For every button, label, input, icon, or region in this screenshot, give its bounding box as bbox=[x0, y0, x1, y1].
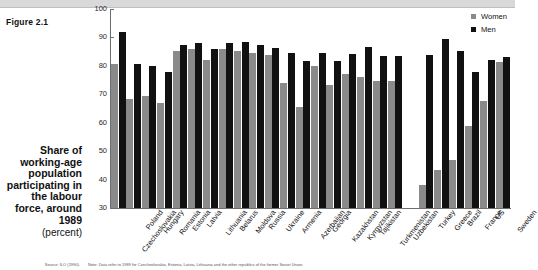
figure-source-note: Source: ILO (1990). bbox=[4, 262, 80, 267]
x-axis-label: Sweden bbox=[515, 208, 538, 234]
bar-women bbox=[419, 185, 426, 208]
bar-group bbox=[419, 9, 434, 208]
bar-men bbox=[180, 45, 187, 208]
bar-men bbox=[303, 61, 310, 208]
figure-caption-title: Share of working-age population particip… bbox=[0, 145, 82, 226]
bar-women bbox=[203, 60, 210, 208]
bar-women bbox=[111, 64, 118, 208]
bar-men bbox=[488, 60, 495, 208]
bar-women bbox=[311, 66, 318, 208]
y-tick-label: 40 bbox=[87, 175, 107, 184]
bar-group bbox=[357, 9, 372, 208]
bar-group bbox=[157, 9, 172, 208]
bar-group bbox=[388, 9, 403, 208]
figure-caption-unit: (percent) bbox=[0, 227, 82, 239]
figure-label: Figure 2.1 bbox=[6, 17, 48, 27]
bar-group bbox=[203, 9, 218, 208]
bar-men bbox=[119, 32, 126, 208]
y-tick-label: 50 bbox=[87, 146, 107, 155]
bar-men bbox=[211, 49, 218, 208]
bar-men bbox=[165, 72, 172, 208]
bar-group bbox=[280, 9, 295, 208]
bar-men bbox=[334, 61, 341, 208]
bar-group bbox=[496, 9, 511, 208]
chart-bars bbox=[111, 9, 511, 208]
bar-men bbox=[195, 43, 202, 208]
bar-men bbox=[288, 53, 295, 208]
bar-men bbox=[149, 66, 156, 208]
bar-women bbox=[142, 96, 149, 208]
bar-men bbox=[380, 56, 387, 208]
y-tick-label: 100 bbox=[87, 4, 107, 13]
bar-women bbox=[219, 49, 226, 208]
bar-group bbox=[265, 9, 280, 208]
bar-men bbox=[272, 48, 279, 208]
bar-men bbox=[349, 54, 356, 208]
bar-women bbox=[496, 62, 503, 208]
bar-group bbox=[219, 9, 234, 208]
y-tick-label: 70 bbox=[87, 89, 107, 98]
bar-group bbox=[126, 9, 141, 208]
bar-women bbox=[373, 81, 380, 208]
bar-group bbox=[449, 9, 464, 208]
bar-group bbox=[434, 9, 449, 208]
bar-group bbox=[173, 9, 188, 208]
bar-women bbox=[342, 74, 349, 208]
bar-group bbox=[311, 9, 326, 208]
x-axis-labels: CzechoslovakiaPolandHungaryRomaniaEstoni… bbox=[111, 208, 531, 270]
bar-women bbox=[388, 81, 395, 208]
bar-men bbox=[503, 57, 510, 208]
bar-women bbox=[357, 77, 364, 208]
bar-men bbox=[319, 53, 326, 208]
bar-women bbox=[188, 49, 195, 208]
bar-group bbox=[480, 9, 495, 208]
bar-group bbox=[111, 9, 126, 208]
bar-women bbox=[234, 51, 241, 208]
bar-group bbox=[342, 9, 357, 208]
bar-men bbox=[134, 64, 141, 208]
bar-men bbox=[457, 51, 464, 208]
bar-group bbox=[373, 9, 388, 208]
bar-women bbox=[465, 126, 472, 208]
chart-plot-area: 10090807060504030 bbox=[88, 9, 512, 213]
page-top-rule bbox=[0, 0, 515, 7]
bar-women bbox=[449, 160, 456, 208]
y-tick-label: 80 bbox=[87, 61, 107, 70]
bar-women bbox=[265, 55, 272, 209]
y-tick-label: 60 bbox=[87, 118, 107, 127]
bar-group bbox=[465, 9, 480, 208]
figure-caption: Share of working-age population particip… bbox=[0, 145, 82, 239]
bar-women bbox=[434, 170, 441, 208]
bar-men bbox=[442, 39, 449, 208]
bar-women bbox=[296, 107, 303, 208]
y-tick-label: 90 bbox=[87, 32, 107, 41]
bar-group bbox=[249, 9, 264, 208]
bar-women bbox=[157, 103, 164, 208]
bar-men bbox=[395, 56, 402, 208]
bar-women bbox=[480, 101, 487, 208]
bar-group bbox=[234, 9, 249, 208]
bar-men bbox=[226, 43, 233, 208]
page-top-rule-line bbox=[0, 7, 515, 8]
bar-women bbox=[280, 83, 287, 208]
bar-women bbox=[126, 99, 133, 208]
bar-men bbox=[365, 47, 372, 208]
bar-men bbox=[257, 45, 264, 208]
bar-men bbox=[426, 55, 433, 209]
y-tick-label: 30 bbox=[87, 203, 107, 212]
bar-group bbox=[188, 9, 203, 208]
bar-women bbox=[173, 51, 180, 208]
bar-women bbox=[326, 85, 333, 208]
bar-group bbox=[326, 9, 341, 208]
bar-group bbox=[296, 9, 311, 208]
bar-men bbox=[472, 72, 479, 208]
bar-group bbox=[142, 9, 157, 208]
bar-men bbox=[242, 42, 249, 208]
bar-women bbox=[249, 53, 256, 208]
